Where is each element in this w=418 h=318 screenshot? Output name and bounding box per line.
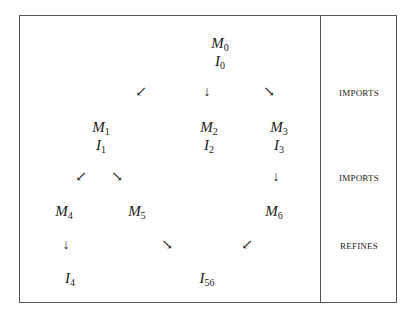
node-symbol: M <box>265 203 278 219</box>
node-i1: I1 <box>81 137 121 158</box>
node-subscript: 4 <box>70 277 75 288</box>
arrow-down-left-icon: ↙ <box>237 238 257 252</box>
node-subscript: 1 <box>105 126 110 137</box>
node-symbol: M <box>55 203 68 219</box>
relation-label-imports: IMPORTS <box>320 173 398 183</box>
column-divider <box>320 15 321 303</box>
node-subscript: 56 <box>205 277 215 288</box>
node-subscript: 1 <box>101 144 106 155</box>
node-m4: M4 <box>44 203 84 224</box>
arrow-down-left-icon: ↙ <box>131 85 151 99</box>
relation-label-refines: REFINES <box>320 241 398 251</box>
relation-label-imports: IMPORTS <box>320 88 398 98</box>
node-symbol: M <box>270 119 283 135</box>
node-subscript: 6 <box>278 210 283 221</box>
node-subscript: 3 <box>279 144 284 155</box>
arrow-down-icon: ↓ <box>56 238 76 252</box>
arrow-down-right-icon: ↘ <box>157 238 177 252</box>
node-subscript: 4 <box>68 210 73 221</box>
arrow-down-right-icon: ↘ <box>259 85 279 99</box>
node-m5: M5 <box>117 203 157 224</box>
node-subscript: 2 <box>213 126 218 137</box>
node-subscript: 0 <box>224 42 229 53</box>
arrow-down-icon: ↓ <box>266 170 286 184</box>
node-symbol: M <box>200 119 213 135</box>
node-m6: M6 <box>254 203 294 224</box>
node-i3: I3 <box>259 137 299 158</box>
arrow-down-icon: ↓ <box>197 85 217 99</box>
node-i56: I56 <box>187 270 227 291</box>
node-subscript: 2 <box>209 144 214 155</box>
node-subscript: 5 <box>141 210 146 221</box>
node-subscript: 3 <box>283 126 288 137</box>
node-symbol: M <box>92 119 105 135</box>
node-i2: I2 <box>189 137 229 158</box>
node-symbol: M <box>128 203 141 219</box>
arrow-down-right-icon: ↘ <box>107 170 127 184</box>
node-subscript: 0 <box>220 60 225 71</box>
node-i4: I4 <box>50 270 90 291</box>
node-symbol: M <box>211 35 224 51</box>
node-i0: I0 <box>200 53 240 74</box>
arrow-down-left-icon: ↙ <box>71 170 91 184</box>
